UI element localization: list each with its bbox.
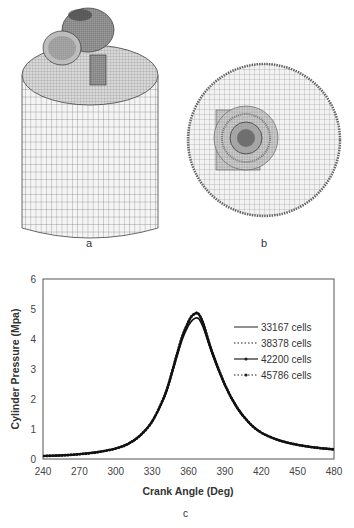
- x-tick-label: 360: [180, 466, 197, 477]
- x-tick-label: 300: [107, 466, 124, 477]
- data-series: [43, 313, 334, 456]
- legend-label: 33167 cells: [261, 322, 312, 333]
- legend-label: 45786 cells: [261, 370, 312, 381]
- y-tick-label: 6: [30, 274, 36, 285]
- y-tick-label: 3: [30, 364, 36, 375]
- x-tick-label: 330: [144, 466, 161, 477]
- legend-label: 42200 cells: [261, 354, 312, 365]
- panel-label-a: a: [86, 237, 92, 249]
- panel-label-b: b: [261, 237, 267, 249]
- panel-label-c: c: [183, 508, 188, 519]
- x-axis-label: Crank Angle (Deg): [142, 485, 233, 497]
- top-view-mesh-illustration: [180, 40, 354, 240]
- series-line: [43, 314, 334, 456]
- y-tick-label: 0: [30, 454, 36, 465]
- y-tick-label: 5: [30, 304, 36, 315]
- x-tick-label: 390: [217, 466, 234, 477]
- cylinder-mesh-illustration: [0, 0, 180, 250]
- chart-legend: 33167 cells38378 cells42200 cells45786 c…: [234, 322, 312, 381]
- panel-c-pressure-chart: 0123456 240270300330360390420450480 3316…: [0, 260, 354, 528]
- x-tick-label: 240: [35, 466, 52, 477]
- x-tick-label: 270: [71, 466, 88, 477]
- x-tick-label: 480: [326, 466, 343, 477]
- y-axis-ticks: 0123456: [30, 274, 36, 465]
- y-tick-label: 4: [30, 334, 36, 345]
- y-tick-label: 1: [30, 424, 36, 435]
- x-tick-label: 450: [289, 466, 306, 477]
- pressure-line-chart: 0123456 240270300330360390420450480 3316…: [0, 260, 354, 510]
- y-axis-label: Cylinder Pressure (Mpa): [9, 309, 21, 430]
- panel-b-top-view-mesh: b: [180, 40, 354, 255]
- panel-a-cylinder-mesh: a: [0, 0, 180, 250]
- legend-label: 38378 cells: [261, 338, 312, 349]
- series-line: [43, 313, 334, 456]
- x-tick-label: 420: [253, 466, 270, 477]
- series-line: [43, 313, 334, 456]
- x-axis-ticks: 240270300330360390420450480: [35, 466, 343, 477]
- y-tick-label: 2: [30, 394, 36, 405]
